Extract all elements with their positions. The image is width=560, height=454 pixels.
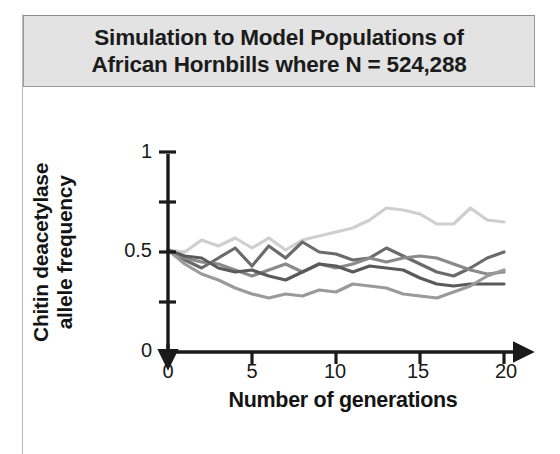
figure-container: Simulation to Model Populations of Afric… [0,0,560,454]
series-group [168,208,504,298]
chart-svg [0,88,560,454]
title-box: Simulation to Model Populations of Afric… [23,15,535,87]
title-line-2: African Hornbills where N = 524,288 [91,51,466,78]
series-line-population-1 [168,208,504,252]
page-title: Simulation to Model Populations of Afric… [83,24,474,79]
plot-area: Chitin deacetylase allele frequency 1 0.… [0,88,560,454]
title-line-1: Simulation to Model Populations of [91,24,466,51]
